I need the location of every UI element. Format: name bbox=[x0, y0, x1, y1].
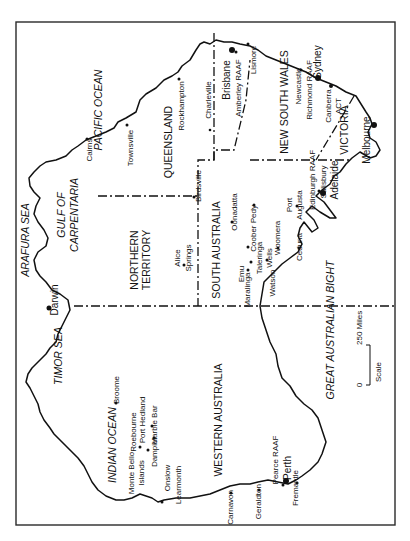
city-label-monte-bello-1: Monte Bello bbox=[127, 451, 136, 494]
sea-label-gulf-1: GULF OF bbox=[55, 192, 67, 238]
city-label-newcastle: Newcastle bbox=[294, 67, 303, 104]
city-label-rockhampton: Rockhampton bbox=[177, 81, 186, 130]
city-label-roebourne: Roebourne bbox=[129, 412, 138, 452]
sea-label-bight: GREAT AUSTRALIAN BIGHT bbox=[324, 259, 336, 399]
city-label-birdsville: Birdsville bbox=[194, 169, 203, 202]
sea-label-gulf-2: CARPENTARIA bbox=[68, 178, 80, 252]
city-label-adelaide: Adelaide bbox=[329, 160, 340, 199]
city-label-cairns: Cairns bbox=[85, 138, 94, 161]
city-label-woomera: Woomera bbox=[273, 220, 282, 255]
city-label-pearce: Pearce RAAF bbox=[271, 435, 280, 484]
city-label-act: ACT bbox=[334, 98, 343, 114]
state-label-nt-2: TERRITORY bbox=[140, 230, 152, 290]
australia-map: 0 250 Miles Scale PACIFIC OCEAN ARAFURA … bbox=[0, 0, 410, 541]
city-label-port-augusta-2: Augusta bbox=[295, 190, 304, 220]
city-label-watson: Watson bbox=[268, 270, 277, 297]
city-label-richmond: Richmond RAAF bbox=[305, 60, 314, 120]
scale-label: Scale bbox=[374, 361, 383, 382]
city-label-edinburgh: Edinburgh RAAF bbox=[308, 150, 317, 210]
state-label-western-australia: WESTERN AUSTRALIA bbox=[212, 363, 224, 476]
city-label-fremantle: Fremantle bbox=[291, 469, 300, 506]
city-label-melbourne: Melbourne bbox=[361, 116, 372, 164]
city-label-geraldton: Geraldton bbox=[254, 484, 263, 519]
city-label-dampier: Dampier bbox=[150, 437, 159, 468]
city-label-learmonth: Learmonth bbox=[174, 466, 183, 504]
sea-label-indian: INDIAN OCEAN bbox=[106, 407, 118, 483]
city-label-darwin: Darwin bbox=[49, 284, 60, 315]
city-label-salisbury: Salisbury bbox=[319, 166, 328, 199]
city-label-lismore: Lismore bbox=[249, 45, 258, 74]
city-label-taleringa-2: Wells bbox=[265, 248, 274, 267]
city-label-canberra: Canberra bbox=[324, 89, 333, 123]
city-label-alice-2: Springs bbox=[184, 244, 193, 271]
city-label-carnavon: Carnavon bbox=[226, 490, 235, 525]
city-label-port-hedland: Port Hedland bbox=[138, 397, 147, 444]
city-label-oonadatta: Oonadatta bbox=[230, 193, 239, 231]
city-label-broome: Broome bbox=[112, 375, 121, 404]
city-label-townsville: Townsville bbox=[126, 129, 135, 166]
scale-zero-label: 0 bbox=[355, 382, 364, 387]
city-label-alice-1: Alice bbox=[173, 249, 182, 267]
city-label-charleville: Charleville bbox=[204, 81, 213, 119]
city-label-taleringa-1: Taleringa bbox=[255, 241, 264, 274]
sea-label-arafura: ARAFURA SEA bbox=[19, 203, 31, 278]
state-label-nsw: NEW SOUTH WALES bbox=[278, 50, 290, 153]
city-label-ceduna: Ceduna bbox=[295, 232, 304, 261]
sea-label-pacific: PACIFIC OCEAN bbox=[92, 69, 104, 150]
city-label-maralinga: Maralinga bbox=[243, 272, 252, 308]
scale-bar: 0 250 Miles Scale bbox=[355, 311, 383, 387]
scale-distance-label: 250 Miles bbox=[355, 311, 364, 345]
state-label-queensland: QUEENSLAND bbox=[162, 105, 174, 178]
city-label-port-augusta-1: Port bbox=[285, 197, 294, 212]
city-label-monte-bello-2: Islands bbox=[137, 460, 146, 485]
state-label-south-australia: SOUTH AUSTRALIA bbox=[210, 201, 222, 298]
sea-label-timor: TIMOR SEA bbox=[52, 327, 64, 385]
city-label-amberley: Amberley RAAF bbox=[234, 59, 243, 116]
city-label-onslow: Onslow bbox=[163, 464, 172, 491]
state-label-nt-1: NORTHERN bbox=[128, 230, 140, 289]
city-label-brisbane: Brisbane bbox=[221, 60, 232, 100]
